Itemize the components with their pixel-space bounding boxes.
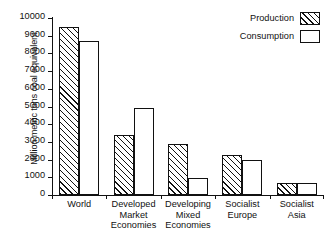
y-axis-tick-label: 3000 xyxy=(25,136,45,145)
bar-production xyxy=(168,144,188,195)
bar-group xyxy=(114,18,154,195)
bar-production xyxy=(277,183,297,195)
bar-group xyxy=(168,18,208,195)
bar-consumption xyxy=(297,183,317,195)
y-axis-tick-label: 6000 xyxy=(25,83,45,92)
y-axis-tick-label: 8000 xyxy=(25,47,45,56)
chart-legend: ProductionConsumption xyxy=(208,12,320,48)
x-axis-tick-label: Socialist Europe xyxy=(215,199,269,220)
y-axis-tick-label: 9000 xyxy=(25,30,45,39)
y-axis-tick-label: 2000 xyxy=(25,154,45,163)
bar-production xyxy=(59,27,79,195)
bar-consumption xyxy=(188,178,208,195)
legend-swatch-consumption-icon xyxy=(300,30,320,43)
bar-consumption xyxy=(134,108,154,195)
y-axis-tick-label: 1000 xyxy=(25,171,45,180)
bar-production xyxy=(114,135,134,195)
bar-group xyxy=(59,18,99,195)
legend-item: Production xyxy=(208,12,320,27)
y-axis-tick-label: 4000 xyxy=(25,118,45,127)
legend-item-label: Consumption xyxy=(240,32,294,41)
x-axis-line xyxy=(52,195,324,196)
x-axis-tick-label: World xyxy=(52,199,106,210)
y-axis-tick-label: 7000 xyxy=(25,65,45,74)
y-axis-tick-label: 10000 xyxy=(19,12,45,21)
x-axis-tick-label: Developing Mixed Economies xyxy=(161,199,215,231)
y-axis-tick-label: 5000 xyxy=(25,101,45,110)
legend-swatch-production-icon xyxy=(300,12,320,25)
bar-production xyxy=(222,155,242,195)
y-axis-tick-label: 0 xyxy=(40,189,45,198)
x-axis-tick-label: Socialist Asia xyxy=(270,199,324,220)
x-axis-tick-label: Developed Market Economies xyxy=(106,199,160,231)
bar-consumption xyxy=(79,41,99,195)
legend-item-label: Production xyxy=(250,14,294,23)
bar-chart: Million metric tons coal equivalent 0100… xyxy=(0,0,330,240)
legend-item: Consumption xyxy=(208,30,320,45)
bar-consumption xyxy=(242,160,262,195)
